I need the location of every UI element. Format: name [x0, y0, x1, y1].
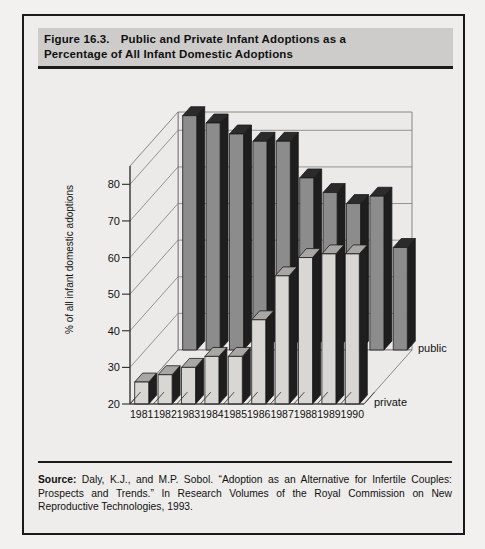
- y-axis-tick-50: 50: [94, 288, 120, 300]
- y-axis-tick-40: 40: [94, 325, 120, 337]
- x-axis-tick-1990: 1990: [337, 408, 367, 420]
- y-axis-tick-80: 80: [94, 178, 120, 190]
- source-citation: Daly, K.J., and M.P. Sobol. “Adoption as…: [38, 474, 452, 512]
- figure-title-line-1: Figure 16.3.Public and Private Infant Ad…: [44, 32, 447, 47]
- legend-label-public: public: [418, 342, 447, 354]
- source-label: Source:: [38, 474, 76, 485]
- figure-title-band: Figure 16.3.Public and Private Infant Ad…: [38, 28, 453, 69]
- figure-container: Figure 16.3.Public and Private Infant Ad…: [22, 14, 465, 535]
- x-axis-tick-labels: 1981198219831984198519861987198819891990: [34, 408, 457, 428]
- figure-number: Figure 16.3.: [44, 33, 110, 45]
- source-divider: [38, 461, 452, 463]
- figure-title-line-2: Percentage of All Infant Domestic Adopti…: [44, 47, 447, 62]
- y-axis-tick-labels: 20304050607080: [94, 102, 120, 452]
- y-axis-tick-30: 30: [94, 361, 120, 373]
- chart-area: % of all infant domestic adoptions 20304…: [34, 102, 457, 452]
- legend-label-private: private: [374, 396, 407, 408]
- y-axis-tick-70: 70: [94, 215, 120, 227]
- page-background: Figure 16.3.Public and Private Infant Ad…: [0, 0, 485, 549]
- source-note: Source: Daly, K.J., and M.P. Sobol. “Ado…: [38, 473, 452, 514]
- figure-title-text-1: Public and Private Infant Adoptions as a: [121, 33, 346, 45]
- y-axis-tick-60: 60: [94, 252, 120, 264]
